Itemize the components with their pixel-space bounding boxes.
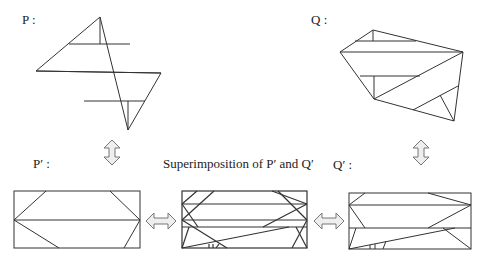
figure-p-prime bbox=[14, 191, 140, 248]
figure-superimposition bbox=[182, 191, 307, 248]
vertical-double-arrow-left bbox=[104, 140, 120, 165]
figure-q bbox=[340, 30, 463, 121]
diagram-svg bbox=[0, 0, 486, 263]
vertical-double-arrow-right bbox=[413, 140, 429, 165]
horizontal-double-arrow-left bbox=[146, 213, 176, 229]
horizontal-double-arrow-right bbox=[314, 213, 344, 229]
diagram-canvas: P : Q : P′ : Superimposition of P′ and Q… bbox=[0, 0, 486, 263]
figure-p bbox=[36, 17, 161, 130]
figure-q-prime bbox=[349, 193, 471, 249]
